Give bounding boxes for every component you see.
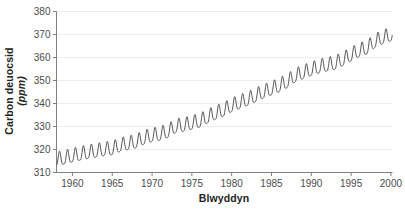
gridlines	[57, 12, 393, 150]
svg-text:2000: 2000	[380, 178, 403, 189]
svg-text:1990: 1990	[300, 178, 323, 189]
plot-area: 310320330340350360370380 196019651970197…	[0, 0, 405, 215]
svg-text:380: 380	[34, 6, 51, 17]
co2-series-line	[57, 29, 393, 166]
svg-text:1980: 1980	[221, 178, 244, 189]
x-axis-title: Blwyddyn	[56, 192, 392, 204]
svg-text:350: 350	[34, 75, 51, 86]
svg-text:1965: 1965	[101, 178, 124, 189]
y-tick-labels: 310320330340350360370380	[34, 6, 51, 178]
svg-text:1970: 1970	[141, 178, 164, 189]
svg-text:370: 370	[34, 29, 51, 40]
svg-text:1995: 1995	[340, 178, 363, 189]
svg-text:320: 320	[34, 144, 51, 155]
svg-text:340: 340	[34, 98, 51, 109]
svg-text:1985: 1985	[260, 178, 283, 189]
axis-lines	[57, 12, 393, 173]
svg-text:1960: 1960	[61, 178, 84, 189]
svg-text:360: 360	[34, 52, 51, 63]
svg-text:310: 310	[34, 167, 51, 178]
svg-text:1975: 1975	[181, 178, 204, 189]
x-tick-marks	[72, 173, 390, 177]
svg-text:330: 330	[34, 121, 51, 132]
x-tick-labels: 196019651970197519801985199019952000	[61, 178, 402, 189]
y-tick-marks	[53, 12, 57, 173]
co2-line-chart: Carbon deuocsid (ppm) 310320330340350360…	[0, 0, 405, 215]
